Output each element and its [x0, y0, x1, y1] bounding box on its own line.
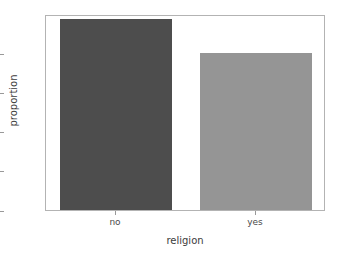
x-tick-mark: [115, 211, 116, 215]
x-tick-label: yes: [215, 217, 295, 227]
y-axis: 02468 proportion: [0, 0, 45, 255]
bar-yes: [200, 53, 312, 210]
y-axis-label: proportion: [8, 56, 19, 146]
y-tick-mark: [0, 132, 4, 133]
x-axis: noyes religion: [0, 211, 352, 255]
y-tick-mark: [0, 93, 4, 94]
bar-no: [60, 19, 172, 210]
y-tick-mark: [0, 211, 4, 212]
plot-area: [45, 15, 325, 211]
x-axis-label: religion: [45, 235, 325, 246]
x-tick-mark: [255, 211, 256, 215]
y-tick-mark: [0, 54, 4, 55]
y-tick-mark: [0, 171, 4, 172]
x-tick-label: no: [75, 217, 155, 227]
bar-chart-figure: 02468 proportion noyes religion: [0, 0, 352, 255]
